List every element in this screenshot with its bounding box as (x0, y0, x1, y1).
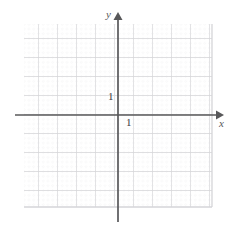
graph-canvas (0, 0, 231, 230)
x-axis-label: x (219, 118, 224, 129)
y-axis-arrowhead (114, 12, 123, 20)
y-axis-label: y (106, 9, 111, 20)
x-axis-unit-label: 1 (126, 117, 132, 128)
coordinate-plane-figure: y x 1 1 (0, 0, 231, 230)
y-axis-unit-label: 1 (108, 91, 114, 102)
